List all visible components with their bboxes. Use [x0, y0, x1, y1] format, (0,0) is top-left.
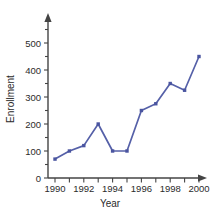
y-tick-label-500: 500: [25, 38, 41, 49]
x-tick-label-1992: 1992: [73, 183, 94, 194]
y-tick-label-300: 300: [25, 92, 41, 103]
x-tick-label-2000: 2000: [188, 183, 209, 194]
data-point-1991: [68, 149, 71, 152]
data-point-1999: [183, 89, 186, 92]
data-point-1993: [97, 122, 100, 125]
enrollment-series-line: [55, 57, 199, 160]
y-axis: [44, 13, 51, 178]
data-point-1998: [169, 82, 172, 85]
y-tick-label-0: 0: [36, 173, 41, 184]
chart-plot-area: 0 100 200 300 400 500 1990 1992 1994 199…: [0, 0, 214, 214]
data-point-1990: [53, 157, 56, 160]
y-tick-label-200: 200: [25, 119, 41, 130]
data-point-2000: [197, 55, 200, 58]
enrollment-line-chart: 0 100 200 300 400 500 1990 1992 1994 199…: [0, 0, 214, 214]
x-axis-title: Year: [100, 198, 121, 209]
x-tick-label-1996: 1996: [131, 183, 152, 194]
y-tick-label-400: 400: [25, 65, 41, 76]
data-point-1995: [125, 149, 128, 152]
arrow-up-icon: [44, 13, 51, 22]
x-tick-label-1994: 1994: [102, 183, 123, 194]
data-point-1992: [82, 144, 85, 147]
data-point-1994: [111, 149, 114, 152]
x-tick-label-1998: 1998: [160, 183, 181, 194]
data-point-1996: [140, 109, 143, 112]
x-tick-label-1990: 1990: [44, 183, 65, 194]
y-tick-label-100: 100: [25, 146, 41, 157]
enrollment-series-markers: [53, 55, 200, 161]
data-point-1997: [154, 102, 157, 105]
y-axis-title: Enrollment: [5, 75, 16, 123]
